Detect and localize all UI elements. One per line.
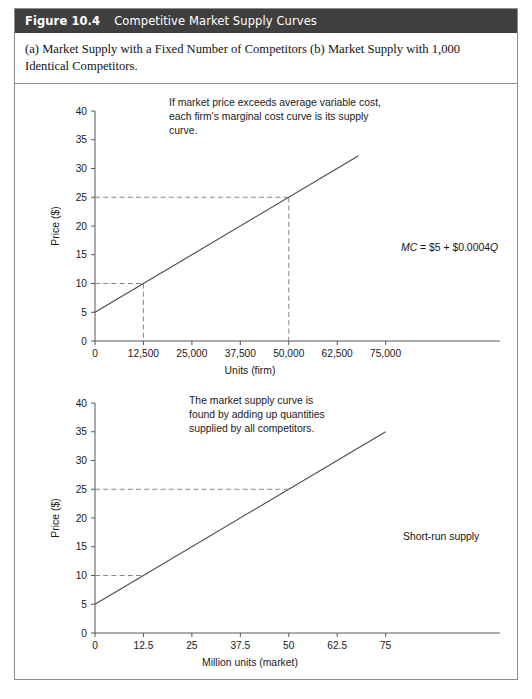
x-axis-title: Units (firm) bbox=[225, 365, 276, 376]
y-tick-label: 20 bbox=[76, 513, 88, 524]
x-tick-label: 37,500 bbox=[225, 348, 256, 359]
x-tick-label: 50 bbox=[283, 640, 295, 651]
y-tick-label: 10 bbox=[76, 570, 88, 581]
x-tick-label: 37.5 bbox=[230, 640, 250, 651]
x-tick-label: 62,500 bbox=[322, 348, 353, 359]
x-tick-label: 12,500 bbox=[128, 348, 159, 359]
y-tick-label: 40 bbox=[76, 106, 88, 117]
y-tick-label: 5 bbox=[81, 307, 87, 318]
y-tick-label: 0 bbox=[81, 336, 87, 347]
mc-equation-body: = $5 + $0.0004 bbox=[417, 242, 490, 253]
x-tick-label: 75,000 bbox=[370, 348, 401, 359]
y-tick-label: 15 bbox=[76, 250, 88, 261]
chart-b-curve-label: Short-run supply bbox=[403, 531, 479, 542]
y-tick-label: 0 bbox=[81, 628, 87, 639]
figure-frame: Figure 10.4 Competitive Market Supply Cu… bbox=[14, 8, 518, 680]
x-tick-label: 25 bbox=[186, 640, 198, 651]
chart-panel-b: 0510152025303540012.52537.55062.575Milli… bbox=[15, 386, 517, 686]
mc-symbol: MC bbox=[401, 242, 417, 253]
y-tick-label: 35 bbox=[76, 427, 88, 438]
x-tick-label: 0 bbox=[92, 348, 98, 359]
figure-caption: (a) Market Supply with a Fixed Number of… bbox=[15, 33, 517, 84]
y-tick-label: 20 bbox=[76, 221, 88, 232]
x-tick-label: 0 bbox=[92, 640, 98, 651]
y-tick-label: 30 bbox=[76, 163, 88, 174]
y-tick-label: 15 bbox=[76, 542, 88, 553]
chart-panel-a: 0510152025303540012,50025,00037,50050,00… bbox=[15, 84, 517, 386]
y-tick-label: 35 bbox=[76, 135, 88, 146]
y-tick-label: 5 bbox=[81, 599, 87, 610]
charts-area: 0510152025303540012,50025,00037,50050,00… bbox=[15, 84, 517, 699]
q-symbol: Q bbox=[490, 242, 498, 253]
chart-b-note: The market supply curve is found by addi… bbox=[189, 394, 325, 435]
figure-title: Competitive Market Supply Curves bbox=[114, 14, 317, 28]
y-tick-label: 25 bbox=[76, 484, 88, 495]
chart-a-curve-equation: MC = $5 + $0.0004Q bbox=[401, 242, 498, 253]
figure-header: Figure 10.4 Competitive Market Supply Cu… bbox=[15, 9, 517, 33]
series-line bbox=[95, 156, 359, 312]
x-axis-title: Million units (market) bbox=[202, 657, 298, 668]
chart-a-note: If market price exceeds average variable… bbox=[169, 96, 381, 137]
x-tick-label: 25,000 bbox=[176, 348, 207, 359]
y-tick-label: 30 bbox=[76, 455, 88, 466]
y-axis-title: Price ($) bbox=[50, 207, 61, 246]
x-tick-label: 50,000 bbox=[273, 348, 304, 359]
y-tick-label: 25 bbox=[76, 192, 88, 203]
x-tick-label: 75 bbox=[380, 640, 392, 651]
y-axis-title: Price ($) bbox=[50, 499, 61, 538]
y-tick-label: 40 bbox=[76, 398, 88, 409]
x-tick-label: 62.5 bbox=[327, 640, 347, 651]
series-line bbox=[95, 432, 386, 605]
y-tick-label: 10 bbox=[76, 278, 88, 289]
figure-number: Figure 10.4 bbox=[25, 14, 100, 28]
x-tick-label: 12.5 bbox=[134, 640, 154, 651]
